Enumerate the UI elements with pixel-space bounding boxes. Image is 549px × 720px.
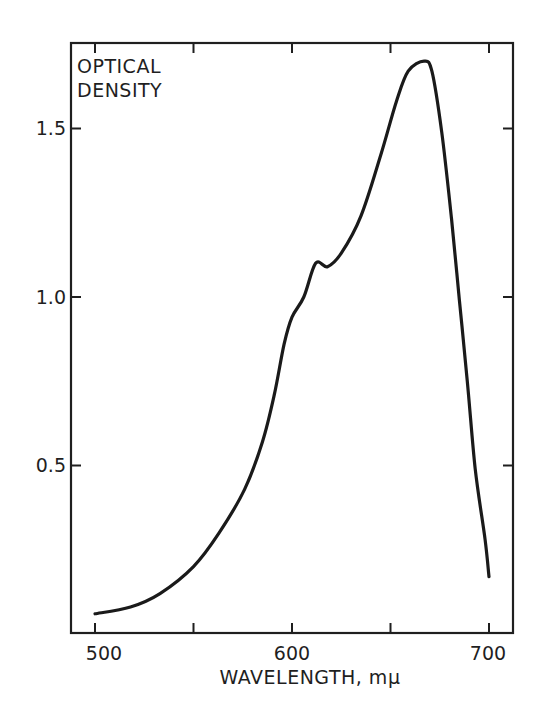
x-tick-label-500: 500 [86,642,122,664]
x-tick-label-600: 600 [274,642,310,664]
y-axis-title-line1: OPTICAL [77,55,161,77]
plot-frame [71,43,513,633]
x-axis-title: WAVELENGTH, mμ [220,666,401,688]
y-tick-label-1.5: 1.5 [36,117,66,139]
x-axis-ticks [95,43,489,633]
x-tick-label-700: 700 [470,642,506,664]
absorption-chart: OPTICAL DENSITY 1.5 1.0 0.5 500 600 700 … [0,0,549,720]
y-tick-label-1.0: 1.0 [36,286,66,308]
y-axis-title-line2: DENSITY [77,79,162,101]
y-tick-label-0.5: 0.5 [36,454,66,476]
absorption-curve [95,61,489,614]
